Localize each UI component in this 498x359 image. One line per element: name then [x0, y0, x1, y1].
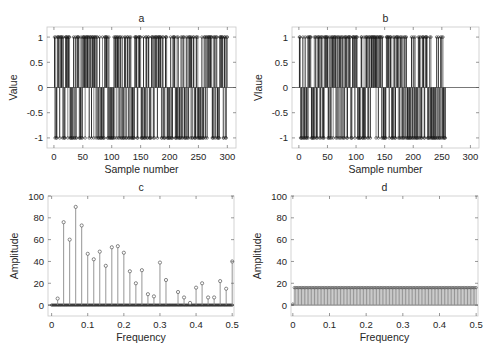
y-tick-label: -0.5: [272, 107, 288, 118]
subplot-title: a: [139, 12, 145, 24]
y-tick-label: 0: [282, 300, 287, 311]
y-tick-label: 40: [33, 256, 44, 267]
x-tick-label: 0.1: [323, 319, 336, 330]
x-tick-label: 0.3: [153, 319, 166, 330]
y-tick-label: -1: [35, 132, 43, 143]
x-tick-label: 50: [322, 151, 333, 162]
y-tick-label: -0.5: [27, 107, 43, 118]
x-axis-label: Frequency: [116, 331, 166, 343]
y-tick-label: 100: [271, 191, 287, 202]
y-tick-label: 20: [33, 278, 44, 289]
y-tick-label: 1: [38, 32, 43, 43]
y-tick-label: 60: [276, 234, 287, 245]
figure: 050100150200250300-1-0.500.51aSample num…: [0, 0, 498, 359]
x-tick-label: 300: [219, 151, 235, 162]
x-tick-label: 250: [191, 151, 207, 162]
y-tick-label: 0.5: [30, 57, 43, 68]
y-tick-label: 80: [276, 212, 287, 223]
x-tick-label: 0.5: [226, 319, 239, 330]
y-tick-label: 1: [283, 32, 288, 43]
y-tick-label: 100: [28, 191, 44, 202]
y-tick-label: 0: [39, 300, 44, 311]
subplot-title: b: [383, 12, 389, 24]
x-tick-label: 200: [162, 151, 178, 162]
y-tick-label: 0.5: [275, 57, 288, 68]
y-axis-label: Amplitude: [8, 233, 20, 280]
y-tick-label: -1: [280, 132, 288, 143]
x-tick-label: 0: [296, 151, 301, 162]
subplot-c: 00.10.20.30.40.5020406080100cFrequencyAm…: [8, 181, 239, 343]
y-tick-label: 80: [33, 212, 44, 223]
subplot-a: 050100150200250300-1-0.500.51aSample num…: [7, 12, 236, 175]
x-tick-label: 0.4: [189, 319, 202, 330]
subplot-title: c: [138, 181, 143, 193]
x-tick-label: 0.5: [470, 319, 483, 330]
subplot-d: 00.10.20.30.40.5020406080100dFrequencyAm…: [251, 181, 483, 343]
x-tick-label: 150: [377, 151, 393, 162]
subplot-title: d: [382, 181, 388, 193]
x-tick-label: 0.3: [396, 319, 409, 330]
y-axis-label: Amplitude: [251, 233, 263, 280]
x-tick-label: 0: [51, 151, 56, 162]
x-tick-label: 250: [434, 151, 450, 162]
x-tick-label: 100: [104, 151, 120, 162]
x-tick-label: 150: [133, 151, 149, 162]
y-tick-label: 0: [283, 82, 288, 93]
y-axis-label: Value: [7, 74, 19, 100]
y-tick-label: 20: [276, 278, 287, 289]
subplot-b: 050100150200250300-1-0.500.51bSample num…: [252, 12, 479, 175]
x-tick-label: 0.1: [81, 319, 94, 330]
x-tick-label: 300: [462, 151, 478, 162]
x-tick-label: 0: [290, 319, 295, 330]
x-tick-label: 200: [405, 151, 421, 162]
x-tick-label: 50: [78, 151, 89, 162]
x-axis-label: Sample number: [348, 163, 423, 175]
x-axis-label: Frequency: [360, 331, 410, 343]
x-tick-label: 0.2: [117, 319, 130, 330]
figure-canvas: 050100150200250300-1-0.500.51aSample num…: [0, 0, 498, 359]
x-tick-label: 0.4: [433, 319, 446, 330]
y-tick-label: 60: [33, 234, 44, 245]
x-tick-label: 0.2: [360, 319, 373, 330]
x-axis-label: Sample number: [104, 163, 179, 175]
y-tick-label: 40: [276, 256, 287, 267]
x-tick-label: 100: [348, 151, 364, 162]
y-tick-label: 0: [38, 82, 43, 93]
y-axis-label: Vlaue: [252, 74, 264, 101]
x-tick-label: 0: [49, 319, 54, 330]
